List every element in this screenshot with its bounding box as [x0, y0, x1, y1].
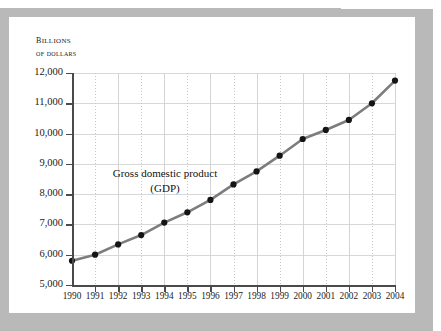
data-point-marker	[253, 168, 259, 174]
x-axis-tick-label: 1992	[107, 291, 129, 301]
gridline-vertical	[395, 73, 396, 285]
y-axis-tick	[66, 285, 72, 286]
y-axis-tick	[66, 134, 72, 135]
x-axis-tick-label: 1991	[84, 291, 106, 301]
y-axis-tick-label: 6,000	[39, 248, 63, 259]
x-axis-tick-label: 2001	[315, 291, 337, 301]
data-point-marker	[323, 127, 329, 133]
data-point-marker	[300, 136, 306, 142]
y-axis-tick-label: 11,000	[35, 96, 64, 107]
y-axis-tick-label: 10,000	[34, 127, 63, 138]
y-axis-tick-label: 12,000	[34, 66, 63, 77]
x-axis-tick-label: 1996	[199, 291, 221, 301]
data-point-marker	[138, 232, 144, 238]
data-point-marker	[92, 252, 98, 258]
x-axis-tick-label: 1990	[61, 291, 83, 301]
chart-figure: Billions of dollars 5,0006,0007,0008,000…	[0, 0, 441, 331]
data-point-marker	[161, 220, 167, 226]
x-axis-tick-label: 1999	[269, 291, 291, 301]
data-point-marker	[115, 241, 121, 247]
data-point-marker	[346, 117, 352, 123]
y-axis-tick-label: 5,000	[39, 278, 63, 289]
y-axis-tick	[66, 194, 72, 195]
data-point-marker	[207, 197, 213, 203]
series-annotation-line1: Gross domestic product	[101, 166, 229, 181]
y-axis-line	[72, 73, 74, 286]
data-point-marker	[369, 100, 375, 106]
x-axis-tick-label: 1995	[176, 291, 198, 301]
frame-notch-top	[341, 0, 441, 9]
y-axis-tick-label: 8,000	[39, 187, 63, 198]
x-axis-tick-label: 1993	[130, 291, 152, 301]
y-axis-tick-label: 7,000	[39, 217, 63, 228]
data-point-marker	[230, 181, 236, 187]
x-axis-tick-label: 2002	[338, 291, 360, 301]
series-annotation-line2: (GDP)	[101, 181, 229, 196]
x-axis-tick-label: 2003	[361, 291, 383, 301]
y-axis-tick-label: 9,000	[39, 157, 63, 168]
y-axis-tick	[66, 164, 72, 165]
y-axis-labels: 5,0006,0007,0008,0009,00010,00011,00012,…	[0, 0, 63, 331]
series-annotation: Gross domestic product (GDP)	[101, 166, 229, 196]
y-axis-tick	[66, 224, 72, 225]
x-axis-tick-label: 1994	[153, 291, 175, 301]
y-axis-tick	[66, 73, 72, 74]
x-axis-tick-label: 2004	[384, 291, 406, 301]
frame-notch-right	[433, 0, 441, 331]
data-point-marker	[277, 153, 283, 159]
y-axis-tick	[66, 103, 72, 104]
x-axis-tick-label: 1998	[246, 291, 268, 301]
x-axis-tick-label: 2000	[292, 291, 314, 301]
y-axis-tick	[66, 255, 72, 256]
data-point-marker	[184, 209, 190, 215]
x-axis-tick-label: 1997	[223, 291, 245, 301]
data-point-marker	[392, 77, 398, 83]
